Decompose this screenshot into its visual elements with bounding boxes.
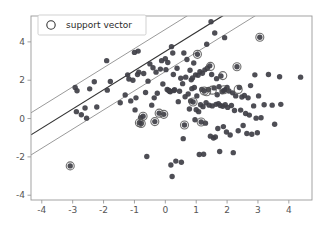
data-point [231, 150, 236, 155]
data-point [236, 128, 241, 133]
data-point [173, 158, 178, 163]
data-point [272, 122, 277, 127]
data-point [108, 79, 113, 84]
x-tick-label: -4 [37, 205, 46, 215]
data-point [266, 72, 271, 77]
data-point [182, 122, 187, 127]
data-point [74, 109, 79, 114]
x-tick-label: 2 [224, 205, 230, 215]
plot-area: -4-3-2-101234-4-2024support vector [16, 0, 312, 215]
data-point [68, 163, 73, 168]
data-point [192, 85, 197, 90]
data-point [122, 92, 127, 97]
data-point [208, 19, 213, 24]
x-tick-label: 0 [162, 205, 168, 215]
data-point [215, 126, 220, 131]
data-point [183, 74, 188, 79]
data-point [185, 91, 190, 96]
y-tick-label: -2 [16, 152, 25, 162]
data-point [133, 95, 138, 100]
data-point [258, 115, 263, 120]
data-point [163, 67, 168, 72]
y-tick-label: 2 [19, 75, 25, 85]
data-point [94, 104, 99, 109]
x-tick-label: -1 [130, 205, 139, 215]
legend[interactable]: support vector [38, 15, 146, 35]
data-point [227, 132, 232, 137]
data-point [181, 136, 186, 141]
data-point [201, 151, 206, 156]
data-point [158, 66, 163, 71]
data-point [105, 87, 110, 92]
data-point [204, 41, 209, 46]
data-point [213, 134, 218, 139]
data-point [149, 102, 154, 107]
data-point [165, 60, 170, 65]
data-point [150, 65, 155, 70]
data-point [248, 83, 253, 88]
data-point [144, 154, 149, 159]
data-point [277, 74, 282, 79]
data-point [79, 112, 84, 117]
data-point [233, 93, 238, 98]
data-point [196, 109, 201, 114]
data-point [234, 64, 239, 69]
data-point [184, 57, 189, 62]
data-point [172, 87, 177, 92]
data-point [240, 123, 245, 128]
data-point [232, 108, 237, 113]
y-tick-label: 4 [19, 37, 25, 47]
data-point [84, 115, 89, 120]
data-point [256, 93, 261, 98]
data-point [261, 102, 266, 107]
legend-label-support-vector: support vector [66, 20, 132, 30]
data-point [278, 102, 283, 107]
data-point [168, 162, 173, 167]
data-point [155, 91, 160, 96]
data-point [209, 72, 214, 77]
data-point [169, 44, 174, 49]
y-tick-label: 0 [19, 114, 25, 124]
data-point [187, 106, 192, 111]
x-tick-label: 4 [286, 205, 292, 215]
data-point [145, 78, 150, 83]
data-point [191, 60, 196, 65]
data-point [135, 48, 140, 53]
x-tick-label: -2 [99, 205, 108, 215]
data-point [180, 81, 185, 86]
data-point [217, 149, 222, 154]
y-tick-label: -4 [16, 190, 25, 200]
data-point [179, 160, 184, 165]
data-point [245, 95, 250, 100]
data-point [247, 112, 252, 117]
data-point [170, 50, 175, 55]
data-point [87, 86, 92, 91]
data-point [152, 119, 157, 124]
data-point [153, 69, 158, 74]
data-point [229, 103, 234, 108]
data-point [130, 78, 135, 83]
data-point [195, 52, 200, 57]
data-point [174, 66, 179, 71]
data-point [140, 114, 145, 119]
data-point [190, 99, 195, 104]
data-point [244, 131, 249, 136]
data-point [74, 88, 79, 93]
data-point [178, 76, 183, 81]
data-point [221, 124, 226, 129]
data-point [177, 89, 182, 94]
x-tick-label: 1 [193, 205, 199, 215]
data-point [249, 132, 254, 137]
data-point [238, 107, 243, 112]
data-point [104, 58, 109, 63]
svm-decision-boundary-chart: -4-3-2-101234-4-2024support vector [0, 0, 330, 229]
data-point [222, 35, 227, 40]
data-point [118, 100, 123, 105]
x-tick-label: -3 [68, 205, 77, 215]
data-point [160, 81, 165, 86]
data-point [171, 72, 176, 77]
data-point [255, 130, 260, 135]
data-point [252, 72, 257, 77]
data-point [253, 115, 258, 120]
data-point [176, 99, 181, 104]
